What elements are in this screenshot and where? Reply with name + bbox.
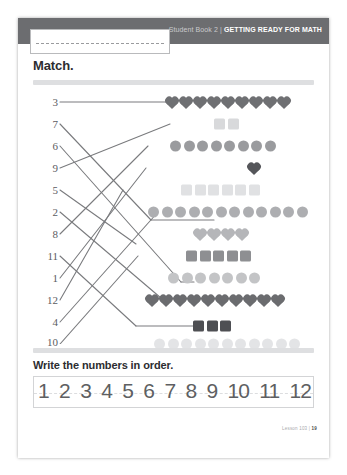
written-number-9[interactable]: 10 — [228, 379, 249, 403]
square-icon — [193, 321, 204, 332]
heart-icon — [236, 229, 247, 240]
header-separator: | — [220, 26, 222, 33]
shape-row-6[interactable] — [194, 229, 250, 240]
circle-icon — [229, 207, 240, 218]
match-number-4[interactable]: 5 — [36, 184, 58, 196]
circle-icon — [175, 207, 186, 218]
match-number-2[interactable]: 6 — [36, 140, 58, 152]
header-section-title: GETTING READY FOR MATH — [224, 26, 322, 33]
match-number-11[interactable]: 10 — [36, 336, 58, 348]
heart-icon — [208, 97, 219, 108]
shape-row-3[interactable] — [248, 163, 262, 174]
circle-icon — [162, 207, 173, 218]
circle-icon — [283, 207, 294, 218]
shape-row-5[interactable] — [148, 207, 310, 218]
written-number-3[interactable]: 4 — [101, 379, 112, 403]
shape-row-8[interactable] — [168, 273, 263, 284]
match-number-5[interactable]: 2 — [36, 206, 58, 218]
circle-icon — [224, 141, 235, 152]
shape-row-10[interactable] — [193, 321, 234, 332]
name-entry-box[interactable] — [30, 29, 170, 54]
heart-icon — [222, 97, 233, 108]
footer-page-number: 19 — [312, 426, 317, 431]
heart-icon — [272, 295, 283, 306]
circle-icon — [249, 273, 260, 284]
heart-icon — [278, 97, 289, 108]
match-number-10[interactable]: 4 — [36, 316, 58, 328]
circle-icon — [195, 273, 206, 284]
square-icon — [186, 251, 197, 262]
match-number-6[interactable]: 8 — [36, 228, 58, 240]
shape-row-2[interactable] — [170, 141, 278, 152]
shape-row-0[interactable] — [166, 97, 292, 108]
heart-icon — [264, 97, 275, 108]
circle-icon — [182, 273, 193, 284]
circle-icon — [297, 207, 308, 218]
square-icon — [240, 251, 251, 262]
written-number-4[interactable]: 5 — [122, 379, 133, 403]
written-number-0[interactable]: 1 — [38, 379, 49, 403]
circle-icon — [243, 207, 254, 218]
heart-icon — [146, 295, 157, 306]
heart-icon — [230, 295, 241, 306]
shape-row-4[interactable] — [181, 185, 262, 196]
written-number-7[interactable]: 8 — [185, 379, 196, 403]
circle-icon — [270, 207, 281, 218]
header-title: Student Book 2 | GETTING READY FOR MATH — [169, 26, 322, 33]
divider-top — [33, 80, 314, 85]
match-number-3[interactable]: 9 — [36, 162, 58, 174]
written-number-8[interactable]: 9 — [207, 379, 218, 403]
written-number-11[interactable]: 12 — [289, 379, 310, 403]
heart-icon — [194, 229, 205, 240]
heart-icon — [248, 163, 259, 174]
written-number-10[interactable]: 11 — [259, 379, 279, 403]
written-number-2[interactable]: 3 — [80, 379, 91, 403]
heart-icon — [202, 295, 213, 306]
worksheet-page: Student Book 2 | GETTING READY FOR MATH … — [18, 18, 329, 458]
shape-row-1[interactable] — [214, 119, 241, 130]
header-book-label: Student Book 2 — [169, 26, 218, 33]
square-icon — [200, 251, 211, 262]
match-number-9[interactable]: 12 — [36, 294, 58, 306]
footer-lesson-label: Lesson 103 — [282, 426, 307, 431]
heart-icon — [180, 97, 191, 108]
square-icon — [235, 185, 246, 196]
square-icon — [220, 321, 231, 332]
heart-icon — [216, 295, 227, 306]
square-icon — [207, 321, 218, 332]
matching-activity: 3 7 6 9 5 2 8 11 1 12 4 10 — [18, 86, 329, 344]
circle-icon — [211, 141, 222, 152]
square-icon — [181, 185, 192, 196]
match-number-1[interactable]: 7 — [36, 118, 58, 130]
circle-icon — [184, 141, 195, 152]
shape-row-7[interactable] — [186, 251, 254, 262]
heart-icon — [208, 229, 219, 240]
match-section-title: Match. — [33, 58, 74, 73]
circle-icon — [148, 207, 159, 218]
square-icon — [213, 251, 224, 262]
circle-icon — [238, 141, 249, 152]
written-number-5[interactable]: 6 — [143, 379, 154, 403]
square-icon — [249, 185, 260, 196]
circle-icon — [168, 273, 179, 284]
circle-icon — [202, 207, 213, 218]
heart-icon — [258, 295, 269, 306]
write-section-title: Write the numbers in order. — [33, 359, 173, 371]
square-icon — [222, 185, 233, 196]
match-number-7[interactable]: 11 — [36, 250, 58, 262]
written-number-6[interactable]: 7 — [164, 379, 175, 403]
square-icon — [227, 251, 238, 262]
square-icon — [214, 119, 225, 130]
match-number-0[interactable]: 3 — [36, 96, 58, 108]
written-numbers-row: 123456789101112 — [38, 375, 311, 407]
shape-row-9[interactable] — [146, 295, 286, 306]
match-number-8[interactable]: 1 — [36, 272, 58, 284]
footer-separator: | — [309, 426, 310, 431]
square-icon — [195, 185, 206, 196]
circle-icon — [197, 141, 208, 152]
heart-icon — [236, 97, 247, 108]
number-writing-box[interactable]: 123456789101112 — [33, 376, 314, 408]
heart-icon — [194, 97, 205, 108]
divider-bottom — [33, 348, 314, 353]
written-number-1[interactable]: 2 — [59, 379, 70, 403]
